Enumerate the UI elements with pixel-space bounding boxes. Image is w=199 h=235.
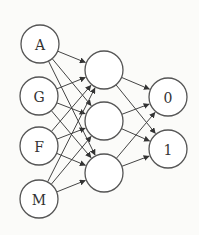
hidden-node-h1	[85, 51, 123, 89]
input-node-A: A	[21, 25, 59, 63]
edge-h1-o0	[122, 77, 150, 89]
hidden-node-h2	[85, 102, 123, 140]
output-node-0: 0	[149, 78, 187, 116]
node-label: M	[32, 192, 46, 208]
edge-F-h2	[57, 128, 86, 139]
input-node-M: M	[20, 180, 58, 218]
output-node-1: 1	[149, 130, 187, 168]
node-label: A	[34, 37, 46, 53]
hidden-node-h3	[85, 154, 123, 192]
edge-h3-o1	[122, 156, 149, 166]
node-label: F	[34, 139, 44, 155]
node-label: G	[33, 89, 44, 105]
edge-M-h3	[57, 180, 86, 192]
input-node-F: F	[20, 127, 58, 165]
edge-A-h1	[58, 51, 86, 62]
neural-network-diagram: AGFM01	[0, 0, 199, 235]
edge-G-h1	[57, 77, 86, 89]
edge-h2-o0	[122, 104, 149, 114]
input-node-G: G	[20, 77, 58, 115]
nodes: AGFM01	[20, 25, 187, 218]
node-label: 0	[164, 90, 173, 106]
node-label: 1	[164, 142, 173, 158]
